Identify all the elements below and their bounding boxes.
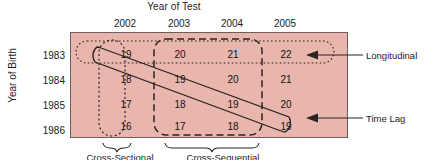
cell-1985-2005: 20 — [266, 99, 306, 110]
brace-caption-cross-sectional: Cross-Sectional — [80, 152, 160, 160]
y-axis-title: Year of Birth — [7, 46, 18, 106]
cross-sectional-brace-icon — [103, 143, 131, 152]
cell-1986-2005: 19 — [266, 121, 306, 132]
row-label-1985: 1985 — [31, 100, 65, 111]
cell-1984-2003: 19 — [160, 74, 200, 85]
column-label-2005: 2005 — [265, 18, 305, 29]
callout-label-longitudinal: Longitudinal — [366, 50, 417, 61]
callout-label-time-lag: Time Lag — [366, 113, 405, 124]
column-label-2003: 2003 — [159, 18, 199, 29]
column-label-2002: 2002 — [105, 18, 145, 29]
cell-1986-2002: 16 — [106, 121, 146, 132]
cell-1985-2003: 18 — [160, 99, 200, 110]
row-label-1983: 1983 — [31, 50, 65, 61]
cell-1983-2004: 21 — [213, 49, 253, 60]
row-label-1984: 1984 — [31, 75, 65, 86]
cell-1984-2004: 20 — [213, 74, 253, 85]
cell-1985-2002: 17 — [106, 99, 146, 110]
cell-1984-2002: 18 — [106, 74, 146, 85]
cell-1983-2003: 20 — [160, 49, 200, 60]
cell-1986-2003: 17 — [160, 121, 200, 132]
cell-1986-2004: 18 — [213, 121, 253, 132]
chart-title: Year of Test — [0, 1, 348, 12]
cell-1985-2004: 19 — [213, 99, 253, 110]
cohort-sequential-design-figure: Year of Test 2002 2003 2004 2005 Year of… — [0, 0, 428, 160]
column-label-2004: 2004 — [212, 18, 252, 29]
cross-sequential-brace-icon — [165, 143, 259, 152]
row-label-1986: 1986 — [31, 125, 65, 136]
matrix-panel: 19 20 21 22 18 19 20 21 17 18 19 20 16 1… — [70, 32, 348, 138]
brace-caption-cross-sequential: Cross-Sequential — [168, 152, 278, 160]
cell-1983-2005: 22 — [266, 49, 306, 60]
cell-1984-2005: 21 — [266, 74, 306, 85]
cell-1983-2002: 19 — [106, 49, 146, 60]
